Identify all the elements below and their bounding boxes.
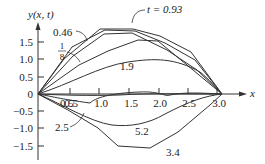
y-axis-label: y(x, t) (27, 8, 54, 21)
annotation-t-1.9: 1.9 (120, 60, 134, 72)
annotation-arrow-icon (76, 31, 87, 41)
chart: 1.5 1.0 0.5 0 −0.5 −1.0 −1.5 0.5 1.0 1.5… (0, 0, 265, 164)
x-axis-label: x (249, 87, 255, 99)
annotation-t-1-8-numerator: 1 (60, 41, 65, 51)
x-tick-label: 3.0 (212, 97, 226, 109)
annotation-t-5.2: 5.2 (135, 125, 149, 137)
annotation-t-1-8-denominator: 8 (60, 52, 65, 62)
y-tick-label: −1.5 (13, 140, 33, 152)
annotation-arrow-icon (132, 10, 145, 23)
y-tick-label: 1.0 (19, 53, 33, 65)
y-axis-arrow-icon (36, 22, 41, 30)
x-tick-label: 2.0 (153, 97, 167, 109)
y-tick-label: 1.5 (19, 36, 33, 48)
y-tick-label: 0.5 (19, 71, 33, 83)
annotation-t-0.93: t = 0.93 (147, 3, 183, 15)
y-tick-label: −1.0 (13, 122, 33, 134)
annotation-t-0.46: 0.46 (53, 26, 73, 38)
y-tick-label: 0 (28, 88, 34, 100)
annotation-t-0.5: 0.5 (60, 97, 74, 109)
x-tick-label: 1.5 (124, 97, 138, 109)
y-tick-label: −0.5 (13, 105, 33, 117)
annotation-t-3.4: 3.4 (166, 146, 180, 158)
annotation-t-2.5: 2.5 (55, 121, 69, 133)
y-tick-labels: 1.5 1.0 0.5 0 −0.5 −1.0 −1.5 (13, 36, 33, 152)
x-axis-arrow-icon (239, 92, 247, 97)
